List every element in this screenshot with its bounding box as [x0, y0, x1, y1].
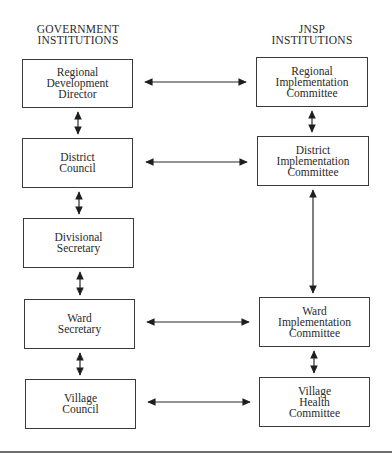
connector-arrows	[0, 0, 392, 454]
bottom-rule	[0, 451, 392, 453]
